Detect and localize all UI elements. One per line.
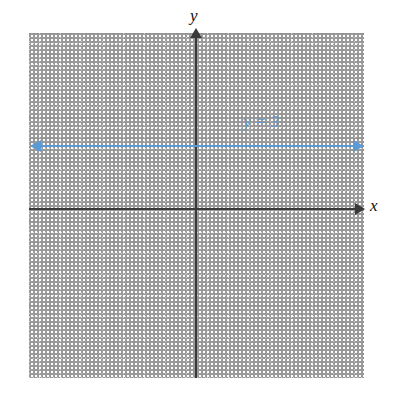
function-line-left-arrow-icon xyxy=(30,140,41,152)
x-axis-label: x xyxy=(370,196,378,216)
y-axis-arrow-icon xyxy=(190,28,202,38)
y-axis xyxy=(195,38,197,378)
function-line-y-equals-3 xyxy=(40,145,354,147)
y-axis-label: y xyxy=(190,6,198,26)
x-axis-arrow-icon xyxy=(355,203,365,215)
graph-figure: y x y = 3 xyxy=(0,0,397,400)
function-equation-label: y = 3 xyxy=(243,112,279,132)
x-axis xyxy=(29,208,359,210)
function-line-right-arrow-icon xyxy=(353,140,364,152)
